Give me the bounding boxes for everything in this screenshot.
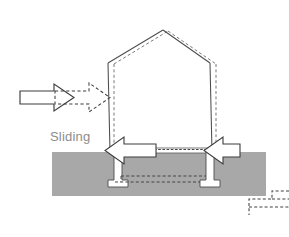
sliding-label: Sliding bbox=[50, 129, 90, 144]
sliding-failure-figure: Sliding bbox=[0, 0, 289, 237]
lateral-load-arrow-solid bbox=[20, 84, 74, 111]
house-displaced-outline bbox=[108, 30, 212, 152]
diagram-canvas: Sliding bbox=[0, 0, 289, 237]
ground-band bbox=[52, 152, 266, 196]
house-original-outline bbox=[114, 31, 216, 152]
